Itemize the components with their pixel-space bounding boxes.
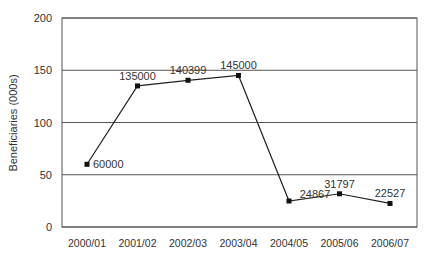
x-tick-label: 2003/04 <box>220 237 258 249</box>
data-marker <box>388 201 393 206</box>
data-marker <box>337 191 342 196</box>
data-label: 24867 <box>300 188 331 200</box>
x-tick-label: 2000/01 <box>68 237 106 249</box>
data-label: 60000 <box>93 158 124 170</box>
data-label: 140399 <box>170 64 207 76</box>
data-label: 135000 <box>119 70 156 82</box>
data-marker <box>287 199 292 204</box>
x-tick-label: 2002/03 <box>169 237 207 249</box>
data-label: 31797 <box>324 178 355 190</box>
data-marker <box>236 73 241 78</box>
x-tick-label: 2005/06 <box>321 237 359 249</box>
y-tick-label: 150 <box>34 64 52 76</box>
data-labels: 60000135000140399145000248673179722527 <box>93 59 405 200</box>
grid-lines <box>62 18 417 227</box>
data-marker <box>135 83 140 88</box>
y-axis-ticks: 050100150200 <box>34 12 52 233</box>
data-marker <box>85 162 90 167</box>
x-tick-label: 2001/02 <box>119 237 157 249</box>
y-tick-label: 0 <box>46 221 52 233</box>
x-axis-ticks: 2000/012001/022002/032003/042004/052005/… <box>68 237 409 249</box>
y-tick-label: 100 <box>34 117 52 129</box>
line-chart: 050100150200 2000/012001/022002/032003/0… <box>0 0 430 258</box>
y-axis-label: Beneficiaries (000s) <box>7 74 19 171</box>
x-tick-label: 2006/07 <box>371 237 409 249</box>
data-marker <box>186 78 191 83</box>
y-tick-label: 200 <box>34 12 52 24</box>
y-tick-label: 50 <box>40 169 52 181</box>
data-label: 145000 <box>220 59 257 71</box>
data-label: 22527 <box>375 187 406 199</box>
x-tick-label: 2004/05 <box>270 237 308 249</box>
